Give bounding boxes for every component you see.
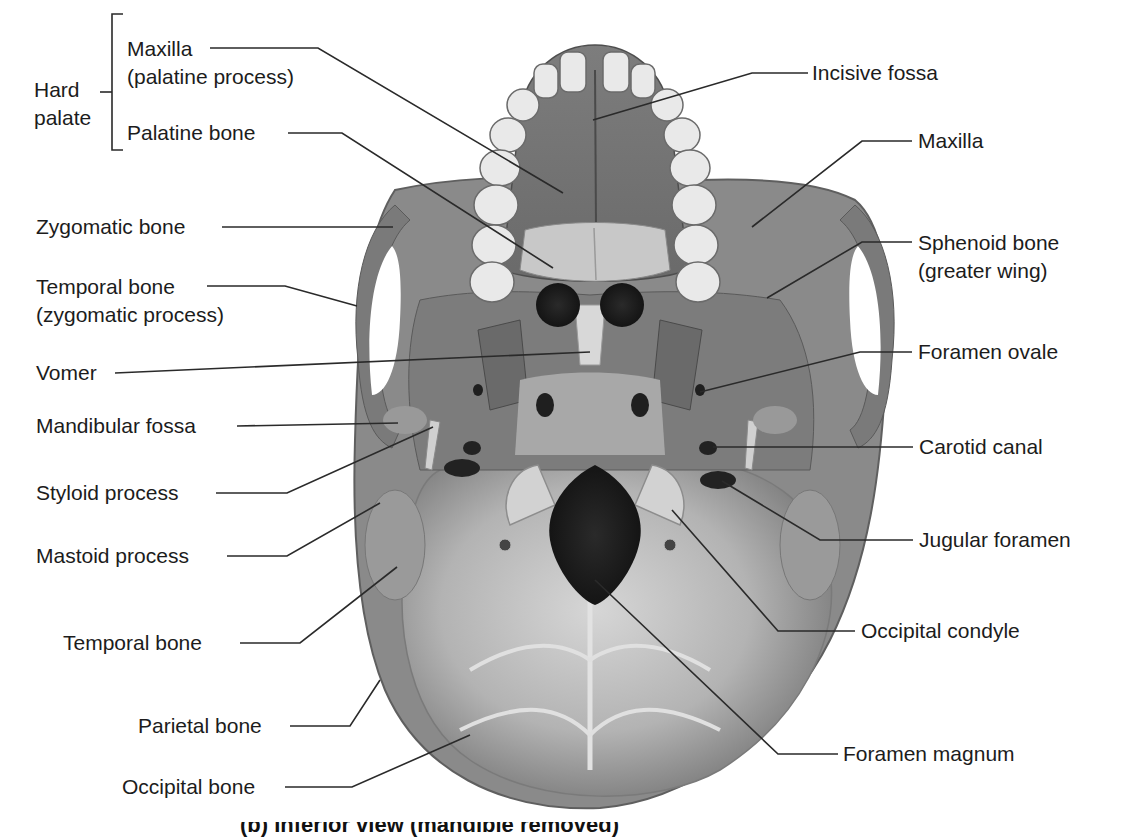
label-maxilla: Maxilla — [918, 128, 983, 153]
label-text: Mastoid process — [36, 544, 189, 567]
label-line: Temporal bone — [36, 273, 224, 301]
label-line: (zygomatic process) — [36, 301, 224, 329]
label-text: Carotid canal — [919, 435, 1043, 458]
label-parietal-bone: Parietal bone — [138, 713, 262, 738]
label-text: Maxilla — [918, 129, 983, 152]
label-occipital-condyle: Occipital condyle — [861, 618, 1020, 643]
label-text: Occipital bone — [122, 775, 255, 798]
label-jugular-foramen: Jugular foramen — [919, 527, 1071, 552]
label-line: Maxilla — [127, 35, 294, 63]
label-text: Foramen ovale — [918, 340, 1058, 363]
label-mastoid-process: Mastoid process — [36, 543, 189, 568]
label-foramen-ovale: Foramen ovale — [918, 339, 1058, 364]
label-maxilla-palatine-process: Maxilla (palatine process) — [127, 35, 294, 91]
label-line: (greater wing) — [918, 257, 1059, 285]
label-text: Foramen magnum — [843, 742, 1015, 765]
label-line: (palatine process) — [127, 63, 294, 91]
label-text: Styloid process — [36, 481, 178, 504]
label-line: Sphenoid bone — [918, 229, 1059, 257]
label-text: Parietal bone — [138, 714, 262, 737]
hard-palate-group-label: Hard palate — [34, 76, 91, 132]
group-label-line2: palate — [34, 104, 91, 132]
group-label-line1: Hard — [34, 76, 91, 104]
label-text: Zygomatic bone — [36, 215, 185, 238]
label-palatine-bone: Palatine bone — [127, 120, 255, 145]
middle-cranial-region — [383, 283, 814, 489]
label-carotid-canal: Carotid canal — [919, 434, 1043, 459]
label-text: Palatine bone — [127, 121, 255, 144]
label-foramen-magnum: Foramen magnum — [843, 741, 1015, 766]
label-temporal-bone-zygomatic-process: Temporal bone (zygomatic process) — [36, 273, 224, 329]
label-text: Vomer — [36, 361, 97, 384]
label-occipital-bone: Occipital bone — [122, 774, 255, 799]
hard-palate — [502, 45, 688, 281]
label-temporal-bone: Temporal bone — [63, 630, 202, 655]
label-text: Incisive fossa — [812, 61, 938, 84]
label-styloid-process: Styloid process — [36, 480, 178, 505]
label-zygomatic-bone: Zygomatic bone — [36, 214, 185, 239]
label-vomer: Vomer — [36, 360, 97, 385]
label-text: Mandibular fossa — [36, 414, 196, 437]
label-text: Temporal bone — [63, 631, 202, 654]
label-text: Occipital condyle — [861, 619, 1020, 642]
label-mandibular-fossa: Mandibular fossa — [36, 413, 196, 438]
label-sphenoid-bone-greater-wing: Sphenoid bone (greater wing) — [918, 229, 1059, 285]
label-text: Jugular foramen — [919, 528, 1071, 551]
label-incisive-fossa: Incisive fossa — [812, 60, 938, 85]
